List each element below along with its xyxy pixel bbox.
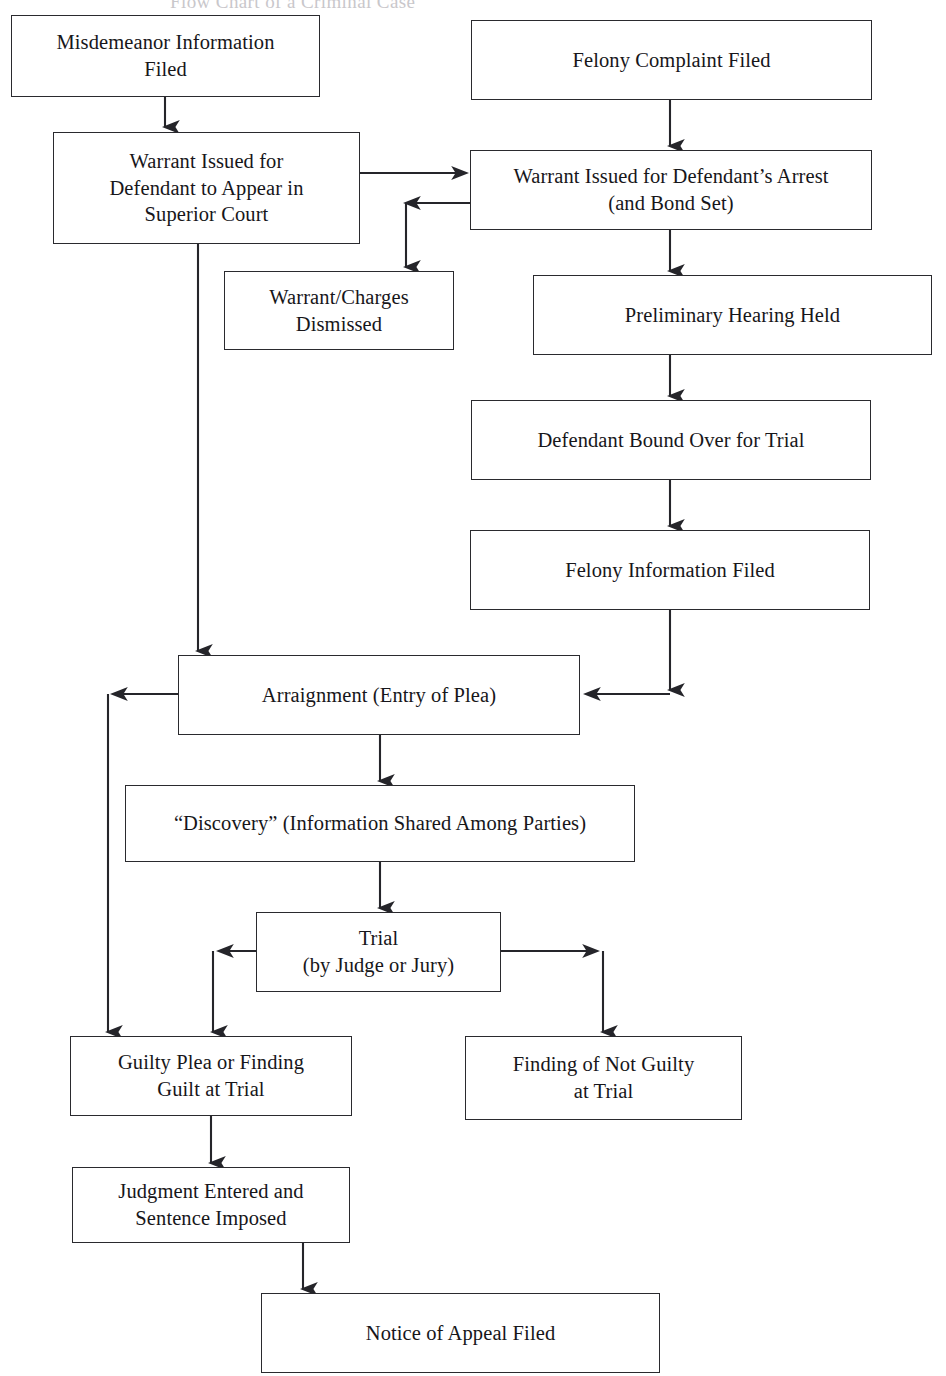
node-label: Guilty Plea or Finding Guilt at Trial — [118, 1049, 304, 1102]
node-label: Trial (by Judge or Jury) — [303, 925, 455, 978]
node-label: Warrant Issued for Defendant to Appear i… — [109, 148, 303, 228]
node-arraignment-entry-of-plea[interactable]: Arraignment (Entry of Plea) — [178, 655, 580, 735]
node-label: Arraignment (Entry of Plea) — [262, 682, 496, 709]
node-defendant-bound-over-for-trial[interactable]: Defendant Bound Over for Trial — [471, 400, 871, 480]
node-warrant-charges-dismissed[interactable]: Warrant/Charges Dismissed — [224, 271, 454, 350]
node-label: “Discovery” (Information Shared Among Pa… — [174, 810, 586, 837]
node-misdemeanor-information-filed[interactable]: Misdemeanor Information Filed — [11, 15, 320, 97]
node-label: Defendant Bound Over for Trial — [537, 427, 804, 454]
node-label: Judgment Entered and Sentence Imposed — [118, 1178, 303, 1231]
node-preliminary-hearing-held[interactable]: Preliminary Hearing Held — [533, 275, 932, 355]
node-felony-information-filed[interactable]: Felony Information Filed — [470, 530, 870, 610]
node-notice-of-appeal-filed[interactable]: Notice of Appeal Filed — [261, 1293, 660, 1373]
node-label: Felony Complaint Filed — [572, 47, 770, 74]
node-label: Felony Information Filed — [565, 557, 775, 584]
flowchart-canvas: Flow Chart of a Criminal Case — [0, 0, 946, 1376]
node-label: Notice of Appeal Filed — [366, 1320, 556, 1347]
node-trial-by-judge-or-jury[interactable]: Trial (by Judge or Jury) — [256, 912, 501, 992]
node-guilty-plea-or-finding-guilt[interactable]: Guilty Plea or Finding Guilt at Trial — [70, 1036, 352, 1116]
node-warrant-issued-defendants-arrest[interactable]: Warrant Issued for Defendant’s Arrest (a… — [470, 150, 872, 230]
node-label: Warrant Issued for Defendant’s Arrest (a… — [513, 163, 828, 216]
node-finding-of-not-guilty-at-trial[interactable]: Finding of Not Guilty at Trial — [465, 1036, 742, 1120]
node-discovery-information-shared[interactable]: “Discovery” (Information Shared Among Pa… — [125, 785, 635, 862]
node-warrant-issued-appear-superior-court[interactable]: Warrant Issued for Defendant to Appear i… — [53, 132, 360, 244]
node-label: Preliminary Hearing Held — [625, 302, 840, 329]
node-felony-complaint-filed[interactable]: Felony Complaint Filed — [471, 20, 872, 100]
node-label: Finding of Not Guilty at Trial — [513, 1051, 695, 1104]
node-judgment-entered-sentence-imposed[interactable]: Judgment Entered and Sentence Imposed — [72, 1167, 350, 1243]
node-label: Misdemeanor Information Filed — [56, 29, 274, 82]
cut-off-page-title: Flow Chart of a Criminal Case — [170, 0, 415, 13]
node-label: Warrant/Charges Dismissed — [269, 284, 409, 337]
